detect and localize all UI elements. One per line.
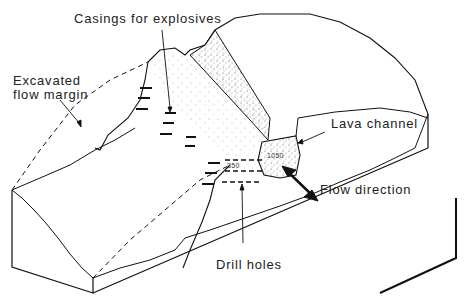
channel-edge: [296, 118, 298, 136]
label-excavated: Excavated: [13, 74, 81, 88]
depth-marker-350: 350: [227, 162, 240, 169]
label-lava-channel: Lava channel: [331, 117, 418, 131]
depth-marker-1050: 1050: [267, 152, 284, 159]
flow-direction-arrow: [282, 166, 318, 201]
scale-bar: [380, 198, 456, 293]
label-flow-margin: flow margin: [13, 88, 88, 102]
label-casings-for-explosives: Casings for explosives: [74, 12, 222, 26]
label-drill-holes: Drill holes: [216, 258, 282, 272]
label-flow-direction: Flow direction: [320, 183, 411, 197]
